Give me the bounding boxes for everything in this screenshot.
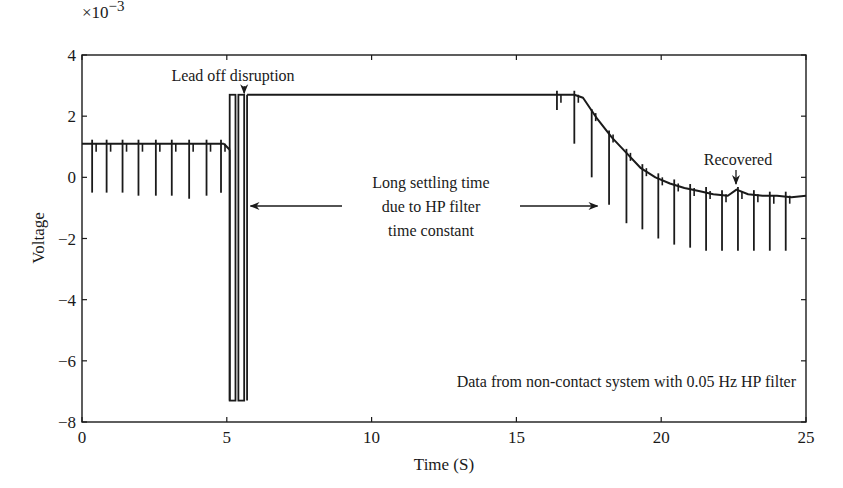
y-tick-label: −6 (58, 352, 76, 371)
y-axis-label: Voltage (29, 212, 48, 264)
annotation-settling-line1: Long settling time (372, 174, 489, 192)
annotation-settling-line2: due to HP filter (382, 198, 481, 215)
annotation-lead-off: Lead off disruption (171, 67, 294, 85)
x-tick-label: 5 (223, 428, 232, 447)
y-multiplier: ×10−3 (82, 0, 125, 22)
x-tick-label: 0 (78, 428, 87, 447)
signal-trace (82, 91, 806, 401)
disruption-pulse (238, 95, 244, 401)
x-tick-label: 10 (363, 428, 380, 447)
x-tick-label: 25 (798, 428, 815, 447)
annotation-settling-line3: time constant (388, 222, 474, 239)
voltage-time-chart: 0510152025−8−6−4−2024 ×10−3 Time (S) Vol… (0, 0, 843, 488)
y-tick-label: 0 (68, 168, 77, 187)
y-tick-label: −4 (58, 291, 77, 310)
y-tick-label: 4 (68, 46, 77, 65)
x-tick-label: 15 (508, 428, 525, 447)
y-tick-label: −2 (58, 230, 76, 249)
annotation-recovered: Recovered (704, 151, 772, 168)
annotations: ×10−3 Time (S) Voltage Lead off disrupti… (29, 0, 797, 474)
x-tick-label: 20 (653, 428, 670, 447)
y-tick-label: −8 (58, 413, 76, 432)
annotation-data-source: Data from non-contact system with 0.05 H… (457, 373, 797, 391)
y-tick-label: 2 (68, 107, 77, 126)
x-axis-label: Time (S) (414, 455, 474, 474)
